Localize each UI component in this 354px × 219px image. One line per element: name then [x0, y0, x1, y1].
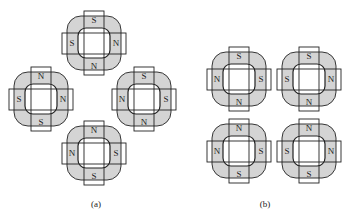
- pole-label-right: S: [163, 94, 168, 104]
- inner-opening: [293, 64, 325, 94]
- inner-opening: [223, 64, 255, 94]
- pole-label-left: N: [69, 148, 76, 158]
- pole-label-left: S: [284, 146, 289, 156]
- pole-label-left: S: [284, 74, 289, 84]
- inner-opening: [128, 84, 160, 114]
- pole-label-right: N: [113, 38, 120, 48]
- pole-label-bottom: N: [141, 117, 148, 127]
- pole-label-bottom: S: [38, 117, 43, 127]
- panel-caption-a: (a): [91, 199, 101, 209]
- magnet-unit-bottom-left: NSSN: [207, 119, 271, 183]
- pole-label-top: N: [38, 71, 45, 81]
- magnet-unit-left: NNSS: [9, 67, 73, 131]
- pole-label-top: N: [91, 125, 98, 135]
- pole-label-bottom: N: [91, 61, 98, 71]
- pole-label-left: N: [119, 94, 126, 104]
- pole-label-top: S: [91, 15, 96, 25]
- magnet-unit-top: SNNS: [62, 11, 126, 75]
- inner-opening: [223, 136, 255, 166]
- magnet-unit-bottom: NSSN: [62, 121, 126, 185]
- inner-opening: [293, 136, 325, 166]
- magnet-unit-right: SSNN: [112, 67, 176, 131]
- panel-b: SSNNSNNSNSSNNNSS(b): [207, 47, 341, 209]
- panel-a: SNNSNNSSSSNNNSSN(a): [9, 11, 176, 209]
- inner-opening: [78, 28, 110, 58]
- pole-label-right: S: [113, 148, 118, 158]
- pole-label-top: S: [141, 71, 146, 81]
- magnet-unit-top-right: SNNS: [277, 47, 341, 111]
- pole-label-top: N: [306, 123, 313, 133]
- inner-opening: [78, 138, 110, 168]
- pole-label-bottom: N: [306, 97, 313, 107]
- pole-label-right: N: [328, 74, 335, 84]
- pole-label-right: N: [60, 94, 67, 104]
- pole-label-bottom: S: [306, 169, 311, 179]
- pole-label-left: S: [69, 38, 74, 48]
- pole-label-bottom: S: [236, 169, 241, 179]
- pole-label-left: S: [16, 94, 21, 104]
- pole-label-right: S: [258, 146, 263, 156]
- pole-label-right: S: [258, 74, 263, 84]
- pole-label-bottom: S: [91, 171, 96, 181]
- pole-label-bottom: N: [236, 97, 243, 107]
- pole-label-top: N: [236, 123, 243, 133]
- magnet-unit-top-left: SSNN: [207, 47, 271, 111]
- pole-label-left: N: [214, 146, 221, 156]
- pole-label-right: N: [328, 146, 335, 156]
- magnet-arrangement-diagram: SNNSNNSSSSNNNSSN(a)SSNNSNNSNSSNNNSS(b): [0, 0, 354, 219]
- pole-label-left: N: [214, 74, 221, 84]
- magnet-unit-bottom-right: NNSS: [277, 119, 341, 183]
- pole-label-top: S: [306, 51, 311, 61]
- pole-label-top: S: [236, 51, 241, 61]
- panel-caption-b: (b): [260, 199, 271, 209]
- inner-opening: [25, 84, 57, 114]
